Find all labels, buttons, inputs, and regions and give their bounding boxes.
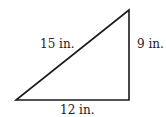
base-label: 12 in. (60, 103, 94, 117)
triangle-diagram: 15 in. 9 in. 12 in. (0, 0, 166, 117)
hypotenuse-label: 15 in. (40, 37, 74, 51)
right-triangle (16, 10, 129, 100)
vertical-side-label: 9 in. (137, 37, 164, 51)
